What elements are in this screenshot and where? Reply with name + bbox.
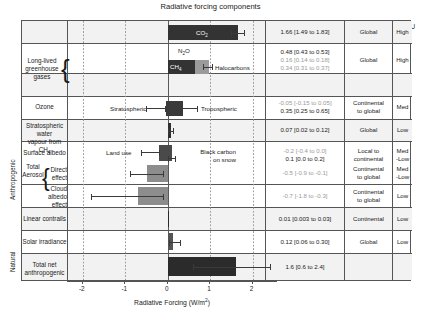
errorbar-solar-irradiance bbox=[169, 242, 181, 243]
rf-value-total-net-anthropogenic: 1.6 [0.6 to 2.4] bbox=[267, 263, 343, 271]
bar-label-co2: CO2 bbox=[196, 29, 208, 38]
term-ozone: Ozone bbox=[22, 103, 67, 111]
x-ticklabel--2: -2 bbox=[79, 285, 85, 292]
errorbar-ozone-strat bbox=[146, 108, 166, 109]
spatial-scale-cloud-albedo: Continentalto global bbox=[345, 188, 392, 204]
spatial-scale-aerosol-direct: Continentalto global bbox=[345, 165, 392, 181]
rf-value-ozone-strat: -0.05 [-0.15 to 0.05] bbox=[267, 99, 343, 107]
term-linear-contrails: Linear contrails bbox=[22, 215, 67, 223]
term-solar-irradiance: Solar irradiance bbox=[22, 238, 67, 246]
losu-surface-albedo: Med-Low bbox=[393, 147, 412, 163]
bar-label-black-carbon-on-snow: Black carbonon snow bbox=[180, 148, 236, 165]
losu-aerosol-direct: Med-Low bbox=[393, 165, 412, 181]
spatial-scale-ozone: Continentalto global bbox=[345, 99, 392, 115]
bar-land-use bbox=[159, 145, 168, 161]
errorbar-total-net-anthropogenic bbox=[193, 267, 271, 268]
x-ticklabel-0: 0 bbox=[165, 285, 169, 292]
errorbar-cloud-albedo-effect bbox=[91, 196, 164, 197]
spatial-scale-surface-albedo: Local tocontinental bbox=[345, 147, 392, 163]
losu-ozone: Med bbox=[393, 103, 412, 111]
rf-value-halocarbons: 0.34 [0.31 to 0.37] bbox=[267, 64, 343, 72]
chart-frame: Long-lived greenhouse gases { Ozone Stra… bbox=[21, 20, 411, 281]
losu-solar-irradiance: Low bbox=[393, 238, 412, 246]
spatial-scale-co2: Global bbox=[345, 28, 392, 36]
spatial-scale-ghg: Global bbox=[345, 56, 392, 64]
x-tick--1 bbox=[124, 281, 125, 284]
bar-linear-contrails bbox=[168, 211, 170, 227]
bar-label-n2o: N2O bbox=[178, 47, 190, 56]
rf-value-strat-water-vapour: 0.07 [0.02 to 0.12] bbox=[267, 126, 343, 134]
errorbar-black-carbon bbox=[168, 158, 177, 159]
spatial-scale-strat-water-vapour: Global bbox=[345, 126, 392, 134]
x-axis-label: Radiative Forcing (W/m2) bbox=[67, 298, 277, 306]
x-tick-1 bbox=[209, 281, 210, 284]
rf-value-aerosol-direct: -0.5 [-0.9 to -0.1] bbox=[267, 169, 343, 177]
losu-co2: High bbox=[393, 28, 412, 36]
term-total-net-anthropogenic: Total net anthropogenic bbox=[22, 261, 67, 277]
spatial-scale-linear-contrails: Continental bbox=[345, 215, 392, 223]
errorbar-co2 bbox=[231, 33, 245, 34]
errorbar-strat-water-vapour bbox=[168, 131, 174, 132]
rf-value-land-use: -0.2 [-0.4 to 0.0] bbox=[267, 147, 343, 155]
x-ticklabel-2: 2 bbox=[250, 285, 254, 292]
bar-label-stratospheric: Stratospheric bbox=[110, 105, 146, 112]
rf-value-cloud-albedo: -0.7 [-1.8 to -0.3] bbox=[267, 192, 343, 200]
errorbar-halocarbons bbox=[203, 67, 213, 68]
bar-label-halocarbons: Halocarbons bbox=[215, 64, 250, 71]
x-tick--2 bbox=[82, 281, 83, 284]
rf-value-black-carbon: 0.1 [0.0 to 0.2] bbox=[267, 155, 343, 163]
gridline-2 bbox=[253, 21, 254, 280]
gridline--2 bbox=[83, 21, 84, 280]
term-cloud-albedo-effect: Cloud albedo effect bbox=[43, 185, 67, 209]
rf-value-ozone-trop: 0.35 [0.25 to 0.65] bbox=[267, 107, 343, 115]
losu-strat-water-vapour: Low bbox=[393, 126, 412, 134]
term-long-lived-ghg: Long-lived greenhouse gases bbox=[22, 57, 62, 81]
spatial-scale-solar-irradiance: Global bbox=[345, 238, 392, 246]
errorbar-aerosol-direct-effect bbox=[130, 174, 164, 175]
side-category-natural: Natural bbox=[9, 252, 16, 272]
term-total-aerosol: Total Aerosol bbox=[22, 163, 44, 179]
x-ticklabel-1: 1 bbox=[207, 285, 211, 292]
bar-label-tropospheric: Tropospheric bbox=[201, 105, 237, 112]
rf-value-co2: 1.66 [1.49 to 1.83] bbox=[267, 28, 343, 36]
losu-linear-contrails: Low bbox=[393, 215, 412, 223]
bar-label-land-use: Land use bbox=[106, 149, 131, 156]
losu-ghg: High bbox=[393, 56, 412, 64]
x-ticklabel--1: -1 bbox=[121, 285, 127, 292]
page-title: Radiative forcing components bbox=[0, 2, 421, 11]
losu-cloud-albedo: Low bbox=[393, 192, 412, 200]
x-tick-2 bbox=[252, 281, 253, 284]
x-tick-0 bbox=[167, 281, 168, 284]
rf-value-linear-contrails: 0.01 [0.003 to 0.03] bbox=[265, 215, 345, 223]
plot-area: CO2 N2O CH4 Halocarbons Stratospheric Tr… bbox=[68, 21, 278, 280]
side-category-anthropogenic: Anthropogenic bbox=[9, 159, 16, 200]
errorbar-ozone-trop bbox=[178, 108, 198, 109]
rf-value-n2o: 0.48 [0.43 to 0.53] bbox=[267, 48, 343, 56]
rf-value-ch4: 0.16 [0.14 to 0.18] bbox=[267, 56, 343, 64]
term-direct-effect: Direct effect bbox=[45, 166, 67, 182]
bar-label-ch4: CH4 bbox=[170, 63, 181, 72]
rf-value-solar-irradiance: 0.12 [0.06 to 0.30] bbox=[267, 238, 343, 246]
x-axis: -2 -1 0 1 2 bbox=[67, 281, 277, 282]
errorbar-land-use bbox=[141, 152, 160, 153]
